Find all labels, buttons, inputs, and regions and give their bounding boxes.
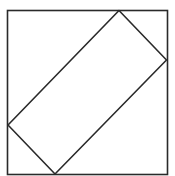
inscribed-rectangle: [8, 11, 167, 175]
diagram-canvas: [0, 0, 175, 176]
